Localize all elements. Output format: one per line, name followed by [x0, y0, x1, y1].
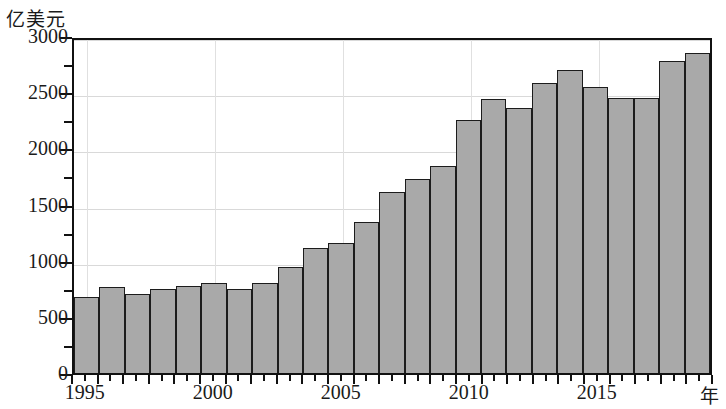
bar — [685, 53, 710, 373]
x-axis-tick-major — [557, 375, 559, 384]
bar — [99, 287, 124, 373]
bar-chart: 亿美元 050010001500200025003000 19952000200… — [0, 0, 726, 409]
plot-area — [72, 38, 712, 375]
bar — [201, 283, 226, 373]
x-axis-tick-label: 2000 — [193, 381, 233, 404]
x-axis-tick-label: 1995 — [65, 381, 105, 404]
bar — [379, 192, 404, 373]
bar — [506, 108, 531, 373]
x-axis-tick-major — [122, 375, 124, 384]
x-axis-tick-minor — [493, 375, 495, 381]
y-axis-tick-label: 2000 — [28, 137, 68, 160]
y-axis-tick-minor — [64, 290, 72, 292]
bar — [303, 248, 328, 373]
bar — [634, 98, 659, 373]
x-axis-tick-major — [148, 375, 150, 384]
x-axis-tick-major — [506, 375, 508, 384]
x-axis-tick-minor — [135, 375, 137, 381]
bar — [354, 222, 379, 373]
x-axis-tick-minor — [570, 375, 572, 381]
bar — [481, 99, 506, 373]
y-axis-tick-minor — [64, 65, 72, 67]
x-axis-tick-label: 2015 — [577, 381, 617, 404]
x-axis-tick-minor — [263, 375, 265, 381]
y-axis-tick-label: 1500 — [28, 194, 68, 217]
y-axis-tick-label: 3000 — [28, 25, 68, 48]
y-axis-tick-minor — [64, 234, 72, 236]
bar — [456, 120, 481, 373]
bar — [125, 294, 150, 373]
bar — [557, 70, 582, 373]
bar — [252, 283, 277, 373]
bar-series — [74, 40, 710, 373]
x-axis-tick-minor — [417, 375, 419, 381]
x-axis-tick-minor — [109, 375, 111, 381]
x-axis-tick-major — [429, 375, 431, 384]
x-axis-tick-major — [276, 375, 278, 384]
bar — [405, 179, 430, 373]
x-axis-tick-minor — [673, 375, 675, 381]
bar — [583, 87, 608, 373]
x-axis-tick-minor — [161, 375, 163, 381]
x-axis-tick-major — [378, 375, 380, 384]
y-axis-tick-label: 500 — [38, 306, 68, 329]
bar — [176, 286, 201, 373]
x-axis-tick-minor — [647, 375, 649, 381]
x-axis-tick-major — [301, 375, 303, 384]
bar — [278, 267, 303, 373]
bar — [227, 289, 252, 373]
y-axis-tick-minor — [64, 177, 72, 179]
x-axis-unit-label: 年 — [700, 381, 719, 408]
x-axis-tick-minor — [365, 375, 367, 381]
bar — [608, 98, 633, 373]
x-axis-tick-minor — [314, 375, 316, 381]
x-axis-tick-minor — [186, 375, 188, 381]
y-axis-tick-minor — [64, 121, 72, 123]
x-axis-tick-minor — [391, 375, 393, 381]
x-axis-tick-label: 2010 — [449, 381, 489, 404]
x-axis-tick-major — [532, 375, 534, 384]
x-axis-tick-minor — [545, 375, 547, 381]
x-axis-tick-minor — [519, 375, 521, 381]
y-axis-tick-minor — [64, 346, 72, 348]
bar — [430, 166, 455, 373]
x-axis-tick-minor — [289, 375, 291, 381]
x-axis-tick-label: 2005 — [321, 381, 361, 404]
x-axis-tick-minor — [442, 375, 444, 381]
y-axis-tick-label: 1000 — [28, 250, 68, 273]
bar — [150, 289, 175, 373]
bar — [532, 83, 557, 373]
bar — [74, 297, 99, 373]
bar — [659, 61, 684, 373]
x-axis-tick-major — [685, 375, 687, 384]
x-axis-tick-major — [250, 375, 252, 384]
x-axis-tick-major — [634, 375, 636, 384]
y-axis-tick-label: 2500 — [28, 81, 68, 104]
bar — [328, 243, 353, 373]
x-axis-tick-major — [404, 375, 406, 384]
x-axis-tick-major — [173, 375, 175, 384]
x-axis-tick-major — [660, 375, 662, 384]
x-axis-tick-minor — [237, 375, 239, 381]
x-axis-tick-minor — [621, 375, 623, 381]
